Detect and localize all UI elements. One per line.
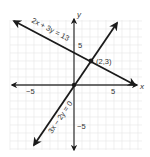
y-tick-pos5: 5 — [78, 41, 82, 50]
intersection-point — [89, 59, 94, 64]
x-tick-pos5: 5 — [111, 87, 115, 96]
x-tick-neg5: −5 — [26, 87, 35, 96]
intersection-label: (2,3) — [96, 57, 112, 66]
y-axis-label: y — [76, 10, 82, 19]
x-axis-label: x — [139, 82, 145, 91]
origin-point — [72, 83, 76, 87]
y-tick-neg5: −5 — [77, 122, 86, 131]
line-2x-plus-3y-label: 2x + 3y = 13 — [30, 16, 71, 43]
linear-system-graph: x y −5 5 5 −5 2x + 3y = 13 3x − 2y = 0 (… — [0, 0, 150, 157]
